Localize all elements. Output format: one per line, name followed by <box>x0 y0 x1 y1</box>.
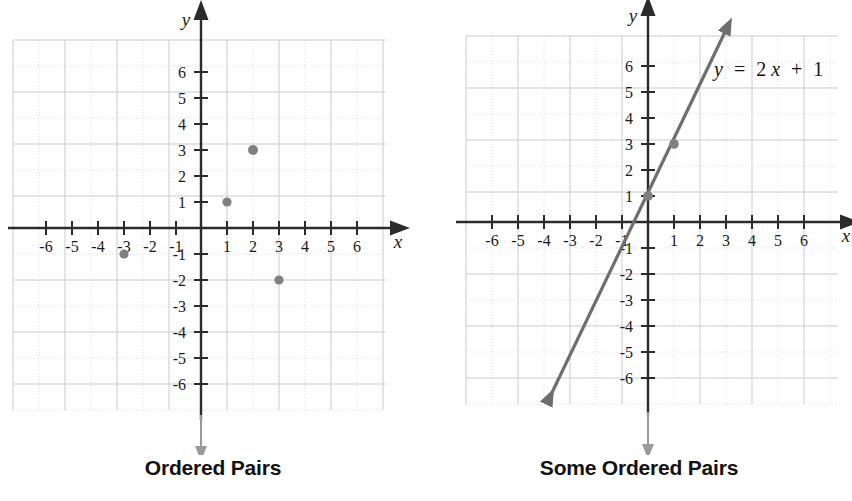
data-point <box>643 191 653 201</box>
x-tick-label: -6 <box>39 238 52 255</box>
y-tick-label: 1 <box>625 188 633 205</box>
data-point <box>119 249 128 258</box>
y-tick-label: -5 <box>620 344 633 361</box>
grid-lines <box>13 40 385 410</box>
data-point <box>274 275 283 284</box>
y-tick-label: -4 <box>173 324 186 341</box>
data-point <box>669 139 679 149</box>
panel-ordered-pairs: -6 -5 -4 -3 -2 -1 1 2 3 4 5 6 6 5 4 3 2 … <box>0 0 426 501</box>
equation-coefficient: 2 <box>756 58 766 80</box>
x-tick-label: 3 <box>722 232 730 249</box>
y-tick-label: 3 <box>178 142 186 159</box>
equation-lhs: y <box>712 58 723 81</box>
y-tick-label: -6 <box>173 376 186 393</box>
equation-constant: 1 <box>813 58 823 80</box>
x-tick-label: -6 <box>485 232 498 249</box>
x-tick-label: 1 <box>670 232 678 249</box>
y-tick-label: 6 <box>625 58 633 75</box>
y-tick-label: -2 <box>173 272 186 289</box>
data-point <box>222 197 231 206</box>
equation-plus: + <box>791 58 802 80</box>
x-tick-label: 2 <box>696 232 704 249</box>
panel-caption: Some Ordered Pairs <box>426 456 852 480</box>
y-tick-label: 4 <box>178 116 186 133</box>
panel-some-ordered-pairs: -6 -5 -4 -3 -2 -1 1 2 3 4 5 6 6 5 4 3 2 … <box>426 0 852 501</box>
x-tick-label: -2 <box>589 232 602 249</box>
y-tick-label: 1 <box>178 194 186 211</box>
graph-ordered-pairs: -6 -5 -4 -3 -2 -1 1 2 3 4 5 6 6 5 4 3 2 … <box>0 0 426 455</box>
x-tick-label: -5 <box>65 238 78 255</box>
x-tick-label: -5 <box>511 232 524 249</box>
graph-some-ordered-pairs: -6 -5 -4 -3 -2 -1 1 2 3 4 5 6 6 5 4 3 2 … <box>426 0 852 455</box>
x-tick-label: 4 <box>301 238 309 255</box>
y-tick-label: 6 <box>178 64 186 81</box>
y-tick-label: 2 <box>625 162 633 179</box>
two-graph-figure: -6 -5 -4 -3 -2 -1 1 2 3 4 5 6 6 5 4 3 2 … <box>0 0 852 501</box>
x-axis-label: x <box>393 231 403 252</box>
y-axis-label: y <box>627 5 638 26</box>
x-tick-label: -2 <box>143 238 156 255</box>
x-tick-label: 5 <box>327 238 335 255</box>
x-tick-label: 2 <box>249 238 257 255</box>
grid-lines-major <box>13 40 385 410</box>
y-tick-label: 2 <box>178 168 186 185</box>
x-tick-label: 6 <box>800 232 808 249</box>
equation-label: y = 2 x + 1 <box>712 58 823 81</box>
x-tick-label: 6 <box>353 238 361 255</box>
x-tick-label: 5 <box>774 232 782 249</box>
x-tick-label: -4 <box>537 232 550 249</box>
x-axis-label: x <box>841 225 851 246</box>
data-point <box>248 145 258 155</box>
y-tick-label: -5 <box>173 350 186 367</box>
y-tick-label: 5 <box>625 84 633 101</box>
y-tick-label: -1 <box>173 246 186 263</box>
y-tick-label: -3 <box>173 298 186 315</box>
x-tick-label: 1 <box>223 238 231 255</box>
y-tick-label: -4 <box>620 318 633 335</box>
panel-caption: Ordered Pairs <box>0 456 426 480</box>
x-tick-label: -3 <box>563 232 576 249</box>
y-tick-label: 4 <box>625 110 633 127</box>
x-tick-label: -4 <box>91 238 104 255</box>
y-tick-label: -6 <box>620 370 633 387</box>
y-tick-label: 3 <box>625 136 633 153</box>
x-tick-label: 3 <box>275 238 283 255</box>
y-tick-label: 5 <box>178 90 186 107</box>
y-tick-label: -3 <box>620 292 633 309</box>
equation-equals: = <box>734 58 745 80</box>
y-axis-label: y <box>180 9 191 30</box>
x-tick-label: 4 <box>748 232 756 249</box>
y-tick-label: -2 <box>620 266 633 283</box>
equation-variable: x <box>770 58 780 80</box>
